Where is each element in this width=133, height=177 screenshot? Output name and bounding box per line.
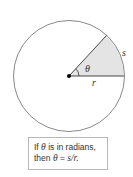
caption-line-2: then θ = s/r. xyxy=(34,153,107,164)
label-s: s xyxy=(122,47,126,58)
center-dot xyxy=(67,74,71,78)
caption-box: If θ is in radians, then θ = s/r. xyxy=(28,137,108,170)
caption-text: = xyxy=(58,153,68,163)
caption-line-1: If θ is in radians, xyxy=(34,142,107,153)
label-theta: θ xyxy=(85,63,90,74)
caption-text: is in radians, xyxy=(46,142,96,152)
label-r: r xyxy=(92,77,96,88)
caption-formula: s/r. xyxy=(67,153,78,163)
caption-text: then xyxy=(34,153,53,163)
